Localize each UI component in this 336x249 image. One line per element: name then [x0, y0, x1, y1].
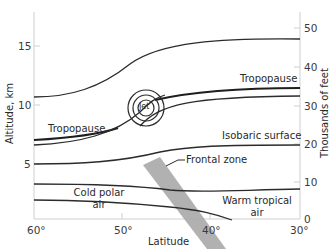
bottom-tick-40: 40°	[202, 225, 221, 236]
label-tropopause-right: Tropopause	[240, 74, 297, 84]
right-tick-20: 20	[304, 139, 317, 150]
left-axis-title: Altitude, km	[5, 83, 15, 144]
label-cold-polar-air-line1: Cold polar	[64, 188, 134, 198]
bottom-axis-title: Latitude	[148, 237, 189, 247]
frontal-zone-leader	[166, 160, 185, 166]
left-tick-5: 5	[24, 159, 31, 170]
label-frontal-zone: Frontal zone	[186, 155, 247, 165]
label-tropopause-left: Tropopause	[48, 124, 105, 134]
bottom-tick-60: 60°	[27, 225, 46, 236]
label-isobaric-surface: Isobaric surface	[222, 131, 301, 141]
jet-stream-cross-section-diagram: 15 10 5 Altitude, km 50 40 30 20 10 0 Th…	[0, 0, 336, 249]
right-tick-40: 40	[304, 62, 317, 73]
right-tick-50: 50	[304, 23, 317, 34]
bottom-tick-30: 30°	[290, 225, 309, 236]
left-axis-ticks	[34, 46, 40, 164]
label-cold-polar-air: Cold polar air	[64, 188, 134, 210]
left-tick-10: 10	[18, 100, 31, 111]
label-warm-tropical-air: Warm tropical air	[222, 196, 292, 218]
isobaric-surface-line	[34, 145, 300, 164]
label-warm-tropical-air-line1: Warm tropical	[222, 196, 292, 206]
right-tick-30: 30	[304, 101, 317, 112]
right-tick-10: 10	[304, 177, 317, 188]
left-tick-15: 15	[18, 41, 31, 52]
right-axis-title: Thousands of feet	[320, 68, 330, 158]
right-axis-ticks	[294, 28, 300, 182]
label-jet: Jet	[139, 103, 149, 111]
bottom-tick-50: 50°	[114, 225, 133, 236]
label-warm-tropical-air-line2: air	[222, 208, 292, 218]
label-cold-polar-air-line2: air	[64, 200, 134, 210]
right-tick-0: 0	[304, 214, 311, 225]
